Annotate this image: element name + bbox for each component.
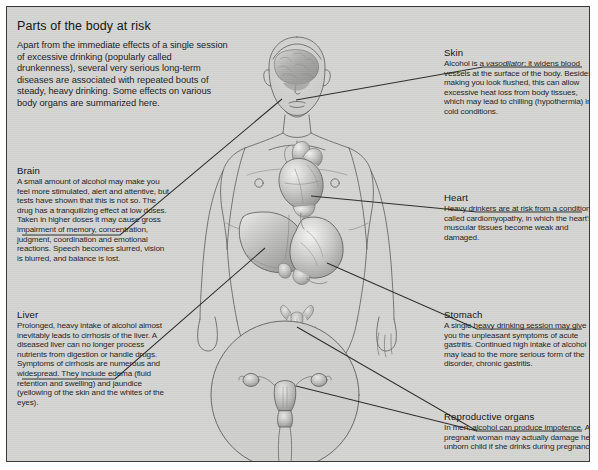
intro-paragraph: Apart from the immediate effects of a si… <box>17 40 232 110</box>
label-reproductive: Reproductive organs In men, alcohol can … <box>444 411 590 452</box>
label-brain-body: A small amount of alcohol may make you f… <box>17 177 169 263</box>
label-stomach-heading: Stomach <box>444 309 590 320</box>
label-heart-heading: Heart <box>444 192 590 203</box>
label-liver-body: Prolonged, heavy intake of alcohol almos… <box>17 321 169 407</box>
stomach-organ <box>290 213 343 285</box>
label-stomach-body: A single heavy drinking session may give… <box>444 321 590 369</box>
figure-panel: Parts of the body at risk Apart from the… <box>6 6 590 462</box>
label-skin-body-italic: vasodilator <box>486 59 524 68</box>
label-reproductive-body: In men, alcohol can produce impotence. A… <box>444 423 590 452</box>
label-heart-body: Heavy drinkers are at risk from a condit… <box>444 204 590 242</box>
label-skin-body-before: Alcohol is a <box>444 59 486 68</box>
label-liver-heading: Liver <box>17 309 169 320</box>
label-brain: Brain A small amount of alcohol may make… <box>17 165 169 263</box>
label-skin-heading: Skin <box>444 47 590 58</box>
label-skin: Skin Alcohol is a vasodilator; it widens… <box>444 47 590 117</box>
heart-organ <box>279 141 323 217</box>
page-title: Parts of the body at risk <box>17 19 232 33</box>
label-reproductive-heading: Reproductive organs <box>444 411 590 422</box>
label-skin-body: Alcohol is a vasodilator; it widens bloo… <box>444 59 590 117</box>
label-brain-heading: Brain <box>17 165 169 176</box>
intro-block: Parts of the body at risk Apart from the… <box>17 19 232 110</box>
label-stomach: Stomach A single heavy drinking session … <box>444 309 590 369</box>
label-liver: Liver Prolonged, heavy intake of alcohol… <box>17 309 169 407</box>
label-heart: Heart Heavy drinkers are at risk from a … <box>444 192 590 242</box>
